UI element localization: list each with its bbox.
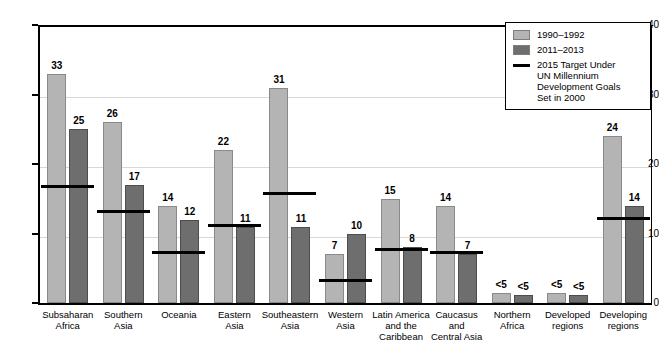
bar-value-label: 11 (230, 214, 261, 224)
x-axis-label: Developingregions (589, 309, 657, 331)
bar-2011-2013 (180, 220, 199, 303)
x-axis-label-line: Asia (336, 320, 354, 331)
bar-value-label: <5 (508, 282, 539, 292)
bar-value-label: 17 (119, 172, 150, 182)
x-axis-label-line: Africa (500, 320, 524, 331)
bar-value-label: 8 (397, 234, 428, 244)
legend-label-2011-2013: 2011–2013 (537, 44, 584, 55)
y-tick-mark-0 (32, 302, 38, 304)
bar-2011-2013 (69, 129, 88, 303)
legend-label-target-line3: Set in 2000 (537, 92, 585, 103)
target-line-2015 (41, 185, 94, 188)
bar-group: 3325 (40, 25, 96, 303)
x-axis-label-line: Asia (225, 320, 243, 331)
legend-label-target-line1: 2015 Target Under (537, 59, 616, 70)
bar-group: 147 (429, 25, 485, 303)
bar-1990-1992 (269, 88, 288, 303)
bar-value-label: 15 (375, 186, 406, 196)
x-axis-label-line: regions (608, 320, 639, 331)
chart-legend: 1990–1992 2011–2013 2015 Target Under UN… (505, 22, 651, 110)
bar-2011-2013 (125, 185, 144, 303)
bar-value-label: 12 (174, 207, 205, 217)
bar-2011-2013 (458, 254, 477, 303)
legend-label-target-line2: UN Millennium Development Goals (537, 70, 620, 92)
bar-value-label: 14 (152, 193, 183, 203)
x-axis-label-line: Latin America (372, 309, 430, 320)
x-axis-label-line: and (449, 320, 465, 331)
bar-value-label: 24 (597, 123, 628, 133)
x-axis-labels: SubsaharanAfricaSouthernAsiaOceaniaEaste… (40, 309, 651, 355)
legend-item-target: 2015 Target Under UN Millennium Developm… (513, 59, 644, 103)
bar-1990-1992 (492, 293, 511, 303)
bar-2011-2013 (291, 227, 310, 303)
bar-2011-2013 (625, 206, 644, 303)
target-line-2015 (152, 251, 205, 254)
x-axis-label-line: Asia (114, 320, 132, 331)
x-axis-label-line: Oceania (161, 309, 196, 320)
y-tick-mark-10 (32, 233, 38, 235)
bar-value-label: 31 (263, 75, 294, 85)
x-axis-label-line: Subsaharan (42, 309, 93, 320)
bar-value-label: 10 (341, 221, 372, 231)
bar-value-label: 26 (97, 109, 128, 119)
legend-item-2011-2013: 2011–2013 (513, 44, 644, 55)
target-line-2015 (597, 217, 650, 220)
y-tick-mark-40 (32, 24, 38, 26)
x-axis-label-line: Asia (281, 320, 299, 331)
bar-1990-1992 (381, 199, 400, 303)
bar-2011-2013 (236, 227, 255, 303)
bar-2011-2013 (347, 234, 366, 304)
legend-item-1990-1992: 1990–1992 (513, 29, 644, 40)
x-axis-label-line: Developed (545, 309, 590, 320)
x-axis-label-line: regions (552, 320, 583, 331)
y-tick-mark-20 (32, 163, 38, 165)
x-axis-label-line: and the (385, 320, 417, 331)
x-axis-label-line: Northern (494, 309, 531, 320)
legend-line-icon-target (513, 60, 530, 70)
bar-value-label: 7 (452, 241, 483, 251)
bar-value-label: 14 (430, 193, 461, 203)
bar-value-label: 11 (285, 214, 316, 224)
x-axis-label-line: Caribbean (379, 331, 423, 342)
bar-group: 710 (318, 25, 374, 303)
legend-swatch-icon-1990-1992 (513, 30, 530, 40)
bar-group: 2211 (207, 25, 263, 303)
bar-1990-1992 (547, 293, 566, 303)
target-line-2015 (263, 192, 316, 195)
bar-group: 1412 (151, 25, 207, 303)
target-line-2015 (208, 224, 261, 227)
bar-group: 158 (373, 25, 429, 303)
bar-group: 2617 (96, 25, 152, 303)
bar-1990-1992 (103, 122, 122, 303)
bar-1990-1992 (47, 74, 66, 303)
target-line-2015 (319, 279, 372, 282)
target-line-2015 (430, 251, 483, 254)
x-axis-label-line: Western (328, 309, 363, 320)
x-axis-label-line: Caucasus (435, 309, 477, 320)
x-axis-label-line: Developing (599, 309, 647, 320)
legend-label-1990-1992: 1990–1992 (537, 29, 585, 40)
x-axis-label-line: Southeastern (262, 309, 319, 320)
x-axis-label-line: Africa (56, 320, 80, 331)
bar-2011-2013 (403, 247, 422, 303)
bar-2011-2013 (569, 295, 588, 303)
bar-value-label: 33 (41, 61, 72, 71)
chart-container: 010203040 33252617141222113111710158147<… (0, 0, 659, 355)
bar-value-label: <5 (563, 282, 594, 292)
x-axis-label-line: Eastern (218, 309, 251, 320)
bar-group: 3111 (262, 25, 318, 303)
target-line-2015 (97, 210, 150, 213)
x-axis-label-line: Southern (104, 309, 143, 320)
y-tick-mark-30 (32, 94, 38, 96)
bar-2011-2013 (514, 295, 533, 303)
bar-value-label: 22 (208, 137, 239, 147)
target-line-2015 (375, 248, 428, 251)
x-axis-label-line: Central Asia (431, 331, 482, 342)
legend-label-target: 2015 Target Under UN Millennium Developm… (537, 59, 644, 103)
legend-swatch-icon-2011-2013 (513, 45, 530, 55)
bar-value-label: 7 (319, 241, 350, 251)
bar-value-label: 14 (619, 193, 650, 203)
bar-value-label: 25 (63, 116, 94, 126)
